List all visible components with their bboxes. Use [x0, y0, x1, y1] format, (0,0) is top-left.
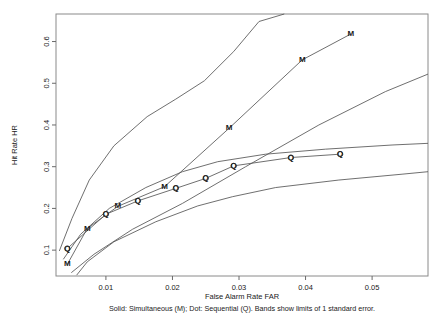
y-tick-label: 0.1	[42, 245, 51, 255]
roc-chart-figure: 0.010.020.030.040.050.10.20.30.40.50.6 M…	[0, 0, 442, 322]
x-tick-label: 0.02	[165, 283, 180, 292]
data-point-marker-q: Q	[64, 244, 70, 253]
series-line	[77, 172, 428, 275]
data-point-marker-q: Q	[231, 161, 237, 170]
data-point-marker-q: Q	[103, 209, 109, 218]
series-layer	[59, 14, 428, 275]
y-tick-label: 0.4	[42, 120, 51, 130]
chart-caption: Solid: Simultaneous (M); Dot: Sequential…	[109, 304, 375, 313]
series-line	[71, 74, 428, 273]
data-point-marker-m: M	[64, 259, 71, 268]
y-tick-label: 0.2	[42, 203, 51, 213]
data-point-marker-q: Q	[203, 173, 209, 182]
y-tick-label: 0.3	[42, 161, 51, 171]
data-point-marker-q: Q	[173, 183, 179, 192]
plot-frame	[56, 14, 428, 276]
data-point-marker-q: Q	[337, 149, 343, 158]
data-point-marker-q: Q	[135, 196, 141, 205]
chart-canvas: 0.010.020.030.040.050.10.20.30.40.50.6 M…	[0, 0, 442, 322]
x-axis-title: False Alarm Rate FAR	[205, 292, 280, 301]
x-tick-label: 0.04	[298, 283, 313, 292]
y-tick-label: 0.5	[42, 78, 51, 88]
data-point-marker-m: M	[299, 55, 306, 64]
series-line	[67, 154, 340, 248]
y-tick-label: 0.6	[42, 36, 51, 46]
data-point-marker-m: M	[161, 182, 168, 191]
data-point-marker-m: M	[115, 201, 122, 210]
label-layer: MMMMMMMQQQQQQQQ	[64, 29, 354, 268]
y-axis-title: Hit Rate HR	[10, 124, 19, 165]
x-tick-label: 0.01	[99, 283, 114, 292]
data-point-marker-m: M	[226, 123, 233, 132]
series-line	[67, 34, 351, 264]
data-point-marker-q: Q	[288, 153, 294, 162]
data-point-marker-m: M	[84, 224, 91, 233]
data-point-marker-m: M	[347, 29, 354, 38]
x-tick-label: 0.05	[365, 283, 380, 292]
x-tick-label: 0.03	[232, 283, 247, 292]
